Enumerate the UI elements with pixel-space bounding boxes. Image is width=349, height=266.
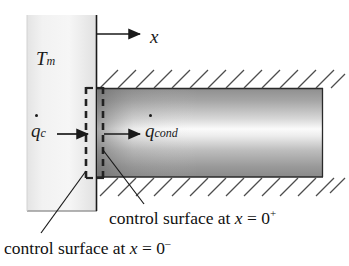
heat-flux-c-subscript: c bbox=[41, 126, 46, 140]
heat-flux-cond-label: qcond bbox=[145, 121, 178, 140]
caption-plus-variable: x bbox=[235, 208, 243, 228]
conducting-bar-shading bbox=[97, 88, 323, 177]
heat-flux-c-label: qc bbox=[31, 121, 46, 140]
heat-flux-c-symbol: q bbox=[31, 120, 41, 141]
heat-flux-cond-subscript: cond bbox=[155, 126, 178, 140]
caption-control-surface-minus: control surface at x = 0– bbox=[4, 238, 171, 257]
caption-minus-sign: – bbox=[165, 237, 171, 249]
q-dot-glyph-cond: q bbox=[145, 121, 155, 140]
caption-minus-variable: x bbox=[130, 238, 138, 258]
conducting-bar-group bbox=[97, 88, 323, 177]
melt-temperature-label: Tm bbox=[36, 49, 55, 68]
heat-flux-cond-symbol: q bbox=[145, 120, 155, 141]
caption-control-surface-plus: control surface at x = 0+ bbox=[109, 208, 276, 227]
caption-plus-prefix: control surface at bbox=[109, 208, 235, 228]
caption-plus-sign: + bbox=[270, 207, 276, 219]
caption-minus-prefix: control surface at bbox=[4, 238, 130, 258]
hatching-top bbox=[100, 70, 345, 88]
caption-plus-equals: = 0 bbox=[243, 208, 270, 228]
melt-temperature-subscript: m bbox=[47, 54, 56, 68]
q-dot-glyph-c: q bbox=[31, 121, 41, 140]
thermal-control-volume-figure: Tm x qc qcond control surface at x = 0+ … bbox=[0, 0, 349, 266]
caption-minus-equals: = 0 bbox=[138, 238, 165, 258]
hatching-bottom bbox=[100, 178, 345, 196]
melt-temperature-symbol: T bbox=[36, 48, 47, 69]
x-axis-symbol: x bbox=[150, 26, 158, 47]
x-axis-label: x bbox=[150, 27, 158, 46]
